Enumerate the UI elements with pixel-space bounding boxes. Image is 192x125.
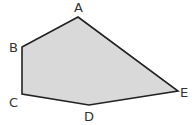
vertex-label-a: A [74, 0, 83, 15]
vertex-label-c: C [9, 95, 18, 110]
pentagon-shape [22, 17, 178, 105]
vertex-label-d: D [84, 109, 94, 124]
vertex-label-e: E [180, 85, 188, 100]
pentagon-diagram: A E D C B [0, 0, 192, 125]
vertex-label-b: B [9, 40, 18, 55]
